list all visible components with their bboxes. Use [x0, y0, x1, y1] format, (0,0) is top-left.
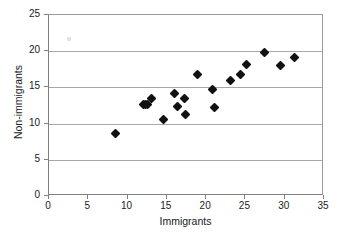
y-axis-title: Non-immigrants [12, 22, 24, 182]
x-tick-label: 15 [151, 200, 181, 212]
data-point [209, 103, 219, 113]
x-tick-label: 5 [72, 200, 102, 212]
x-tick-label: 30 [269, 200, 299, 212]
y-tick-mark [44, 159, 48, 160]
x-axis-title: Immigrants [48, 215, 323, 227]
x-tick-mark [127, 195, 128, 199]
y-tick-label: 0 [10, 189, 40, 201]
gridline [49, 124, 322, 125]
y-tick-mark [44, 50, 48, 51]
x-tick-mark [87, 195, 88, 199]
gridline [49, 87, 322, 88]
y-tick-label: 25 [10, 8, 40, 20]
data-point [111, 128, 121, 138]
data-point [170, 89, 180, 99]
data-point [180, 93, 190, 103]
y-tick-mark [44, 14, 48, 15]
data-point [259, 48, 269, 58]
data-point [226, 75, 236, 85]
x-tick-mark [323, 195, 324, 199]
scatter-chart: 05101520253035 0510152025 Immigrants Non… [0, 0, 341, 242]
data-point [241, 60, 251, 70]
data-point [290, 53, 300, 63]
data-point [275, 61, 285, 71]
y-tick-mark [44, 86, 48, 87]
y-tick-mark [44, 123, 48, 124]
x-tick-label: 35 [308, 200, 338, 212]
x-tick-mark [284, 195, 285, 199]
x-tick-mark [48, 195, 49, 199]
gridline [49, 51, 322, 52]
data-point [207, 85, 217, 95]
x-tick-mark [205, 195, 206, 199]
x-tick-label: 10 [112, 200, 142, 212]
data-point [193, 69, 203, 79]
data-point [236, 69, 246, 79]
x-tick-label: 25 [229, 200, 259, 212]
x-tick-label: 0 [33, 200, 63, 212]
y-tick-mark [44, 195, 48, 196]
data-point [172, 101, 182, 111]
data-point [181, 110, 191, 120]
x-tick-mark [166, 195, 167, 199]
plot-area [48, 14, 323, 195]
x-tick-label: 20 [190, 200, 220, 212]
gridline [49, 160, 322, 161]
x-tick-mark [244, 195, 245, 199]
scan-artifact [67, 37, 71, 41]
